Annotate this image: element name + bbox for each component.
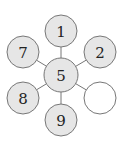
node-label: 2: [95, 44, 105, 62]
connector-line-upper-left: [37, 60, 47, 66]
node-upper-right: 2: [84, 36, 116, 68]
connector-line-upper-right: [76, 60, 87, 66]
center-label: 5: [56, 67, 66, 85]
node-label: 9: [56, 112, 66, 130]
empty-circle: [84, 82, 116, 114]
node-bottom: 9: [45, 104, 77, 136]
node-label: 1: [56, 23, 66, 41]
node-lower-right: [84, 82, 116, 114]
node-label: 7: [18, 44, 28, 62]
center-node: 5: [44, 58, 78, 92]
node-lower-left: 8: [7, 82, 39, 114]
connector-line-lower-left: [37, 84, 47, 90]
connector-line-lower-right: [76, 84, 87, 90]
number-diagram: 12987 5: [0, 0, 127, 143]
node-upper-left: 7: [7, 36, 39, 68]
node-label: 8: [18, 90, 28, 108]
node-top: 1: [45, 15, 77, 47]
